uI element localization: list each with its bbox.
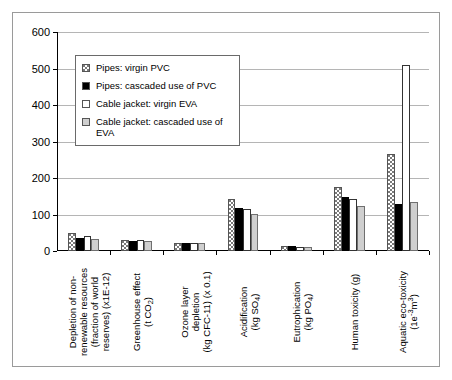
legend-swatch-icon [82, 82, 90, 90]
bar [395, 204, 403, 251]
chart-frame: 0100200300400500600 Depletion of non-ren… [12, 12, 440, 367]
bar [198, 243, 206, 251]
bar [182, 243, 190, 251]
bar [228, 199, 236, 251]
bar [68, 233, 76, 251]
x-category-label-line: (1e-3m3) [408, 260, 420, 364]
y-axis-line [57, 32, 58, 251]
y-tick-label: 100 [32, 209, 50, 220]
legend-swatch-icon [82, 64, 90, 72]
bar [334, 187, 342, 251]
legend: Pipes: virgin PVCPipes: cascaded use of … [75, 55, 240, 146]
legend-item-label: Cable jacket: virgin EVA [96, 98, 197, 109]
bar [304, 247, 312, 251]
x-category-label-line: Human toxicity (g) [349, 260, 360, 364]
y-tick-label: 500 [32, 63, 50, 74]
bar [174, 243, 182, 251]
legend-item[interactable]: Cable jacket: cascaded use of EVA [82, 116, 232, 138]
bar [121, 240, 129, 251]
bar [410, 202, 418, 251]
bar [190, 243, 198, 251]
y-tick-mark [53, 251, 57, 252]
legend-item-label: Pipes: cascaded use of PVC [96, 80, 216, 91]
bar [235, 208, 243, 251]
bar [357, 206, 365, 251]
bar [144, 241, 152, 251]
bar [281, 246, 289, 251]
legend-swatch-icon [82, 118, 90, 126]
x-tick-mark [376, 251, 377, 255]
x-tick-mark [110, 251, 111, 255]
x-tick-mark [429, 251, 430, 255]
bar [402, 65, 410, 251]
bar [251, 214, 259, 251]
bar [342, 197, 350, 251]
bar [84, 236, 92, 251]
bar [387, 154, 395, 251]
x-category-label-line: Greenhouse effect [131, 260, 142, 364]
x-category-label-line: (kg CFC-11) (x 0.1) [201, 260, 212, 364]
legend-swatch-icon [82, 100, 90, 108]
x-category-label-line: reserves) (x1E-12) [100, 260, 111, 364]
y-tick-label: 300 [32, 136, 50, 147]
x-category-label-line: Eutrophication [291, 260, 302, 364]
x-tick-mark [270, 251, 271, 255]
x-category-label-line: Ozone layer [179, 260, 190, 364]
x-category-label-line: renewable resources [78, 260, 89, 364]
gridline [57, 32, 429, 33]
legend-item[interactable]: Pipes: virgin PVC [82, 62, 232, 73]
x-category-label-line: (t CO2) [142, 260, 154, 364]
y-tick-label: 600 [32, 27, 50, 38]
x-category-label-line: Acidification [238, 260, 249, 364]
chart-screenshot: 0100200300400500600 Depletion of non-ren… [0, 0, 452, 380]
bar [91, 239, 99, 251]
x-category-label-line: depletion [190, 260, 201, 364]
legend-item-label: Cable jacket: cascaded use of EVA [96, 116, 232, 138]
x-tick-mark [216, 251, 217, 255]
x-category-label-line: Depletion of non- [67, 260, 78, 364]
bar [296, 247, 304, 251]
y-tick-label: 400 [32, 100, 50, 111]
gridline [57, 178, 429, 179]
bar [288, 246, 296, 251]
x-tick-mark [163, 251, 164, 255]
bar [349, 199, 357, 251]
legend-item[interactable]: Pipes: cascaded use of PVC [82, 80, 232, 91]
y-tick-label: 200 [32, 173, 50, 184]
x-category-label-line: (kg PO4) [302, 260, 314, 364]
bar [137, 240, 145, 251]
x-category-label-line: (kg SO4) [249, 260, 261, 364]
x-tick-mark [323, 251, 324, 255]
legend-item[interactable]: Cable jacket: virgin EVA [82, 98, 232, 109]
bar [76, 238, 84, 252]
legend-item-label: Pipes: virgin PVC [96, 62, 170, 73]
x-category-label-line: (fraction of world [89, 260, 100, 364]
bar [243, 209, 251, 251]
y-tick-label: 0 [44, 246, 50, 257]
bar [129, 241, 137, 251]
